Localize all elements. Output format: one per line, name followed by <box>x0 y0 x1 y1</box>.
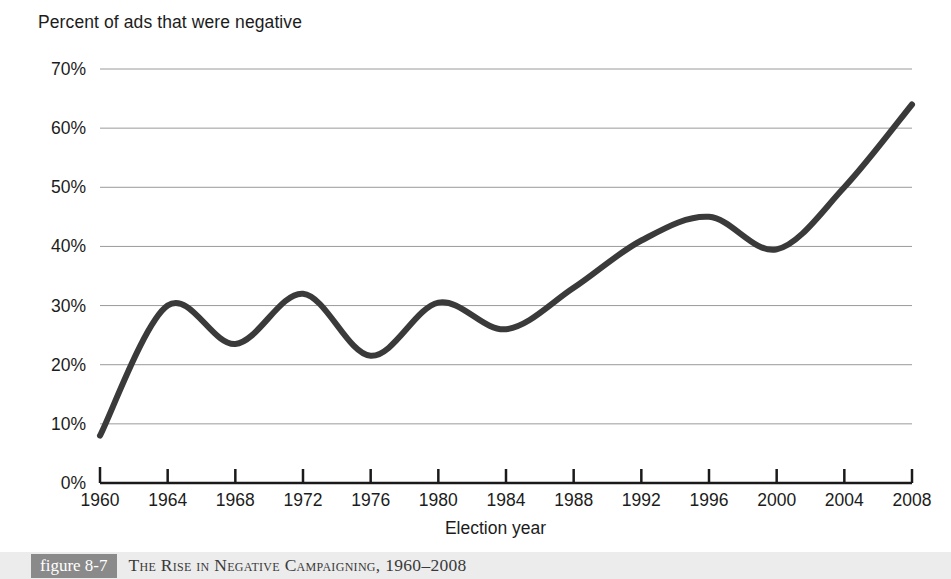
figure-number-tag: figure 8-7 <box>31 554 117 578</box>
x-axis-label: Election year <box>0 518 951 539</box>
plot-area: 70%60%50%40%30%20%10%0% 1960196419681972… <box>0 0 951 545</box>
figure-caption-text: The Rise in Negative Campaigning, 1960–2… <box>129 555 467 576</box>
figure-container: Percent of ads that were negative 70%60%… <box>0 0 951 579</box>
x-tick-label: 2008 <box>867 490 951 511</box>
figure-caption-band: figure 8-7 The Rise in Negative Campaign… <box>0 552 951 579</box>
x-axis-tick-labels: 1960196419681972197619801984198819921996… <box>0 0 951 545</box>
x-axis-label-text: Election year <box>445 518 546 539</box>
